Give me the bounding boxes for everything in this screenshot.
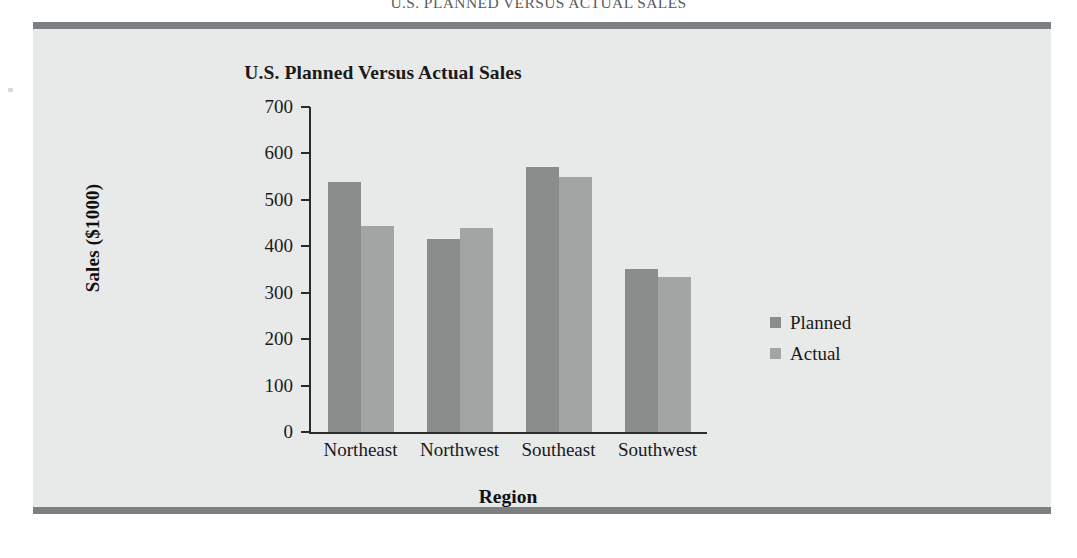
y-axis-tick-label: 700 — [233, 96, 293, 118]
y-axis-tick-label: 600 — [233, 142, 293, 164]
chart-legend: PlannedActual — [770, 307, 930, 369]
y-axis-tick-label: 500 — [233, 189, 293, 211]
y-axis-tick-label: 300 — [233, 282, 293, 304]
y-axis-tick — [301, 245, 310, 247]
page-running-head: U.S. PLANNED VERSUS ACTUAL SALES — [0, 0, 1077, 8]
chart-title: U.S. Planned Versus Actual Sales — [33, 62, 733, 84]
y-axis-tick-label-wrap: 200 — [223, 339, 293, 340]
legend-label: Planned — [790, 312, 851, 334]
y-axis-tick — [301, 338, 310, 340]
y-axis-tick-label-wrap: 100 — [223, 386, 293, 387]
x-axis-title: Region — [309, 486, 707, 508]
y-axis-tick-label-wrap: 700 — [223, 107, 293, 108]
y-axis-tick-label-wrap: 300 — [223, 293, 293, 294]
x-axis-tick-label: Southwest — [600, 439, 715, 461]
bar-planned-northwest — [427, 239, 460, 432]
y-axis-tick — [301, 431, 310, 433]
y-axis-tick-label: 400 — [233, 235, 293, 257]
y-axis-title: Sales ($1000) — [82, 123, 104, 353]
y-axis-tick-label-wrap: 600 — [223, 153, 293, 154]
bar-actual-northwest — [460, 228, 493, 432]
y-axis-tick-label: 0 — [233, 421, 293, 443]
x-axis-tick-label: Northeast — [303, 439, 418, 461]
margin-speck — [8, 88, 13, 92]
bar-planned-southeast — [526, 167, 559, 432]
y-axis-tick — [301, 292, 310, 294]
y-axis-tick-label: 200 — [233, 328, 293, 350]
legend-item: Planned — [770, 307, 930, 338]
bar-actual-southwest — [658, 277, 691, 432]
chart-figure: U.S. Planned Versus Actual Sales Sales (… — [33, 22, 1051, 514]
y-axis-tick-label-wrap: 500 — [223, 200, 293, 201]
y-axis-tick — [301, 106, 310, 108]
x-axis-tick-label: Northwest — [402, 439, 517, 461]
bar-planned-northeast — [328, 182, 361, 432]
bar-actual-northeast — [361, 226, 394, 432]
x-axis-line — [309, 432, 707, 434]
legend-item: Actual — [770, 338, 930, 369]
bar-planned-southwest — [625, 269, 658, 432]
y-axis-tick — [301, 199, 310, 201]
x-axis-tick-label: Southeast — [501, 439, 616, 461]
legend-swatch-icon — [770, 317, 781, 328]
y-axis-tick-label-wrap: 0 — [223, 432, 293, 433]
y-axis-tick — [301, 152, 310, 154]
legend-label: Actual — [790, 343, 841, 365]
bar-series-layer — [311, 107, 707, 432]
chart-plot-area: U.S. Planned Versus Actual Sales Sales (… — [33, 29, 1051, 521]
y-axis-tick-label-wrap: 400 — [223, 246, 293, 247]
bar-actual-southeast — [559, 177, 592, 432]
legend-swatch-icon — [770, 348, 781, 359]
y-axis-tick — [301, 385, 310, 387]
y-axis-tick-label: 100 — [233, 375, 293, 397]
